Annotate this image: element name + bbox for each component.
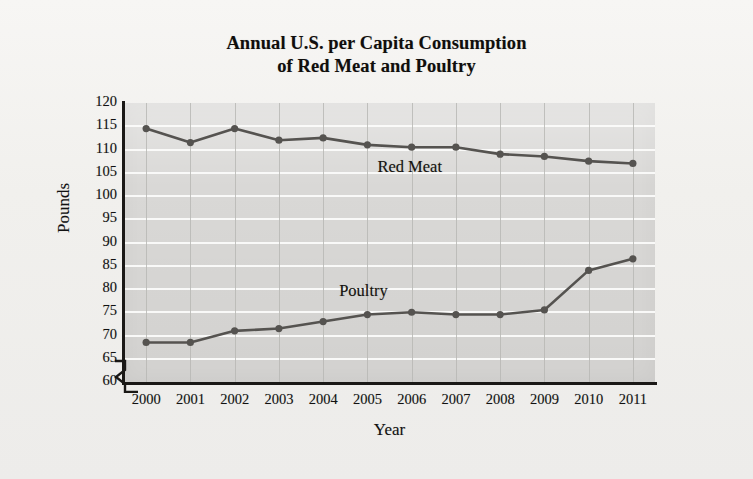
y-tick-label: 60: [77, 372, 117, 389]
data-point: [629, 255, 636, 262]
y-tick-label: 70: [77, 326, 117, 343]
y-axis-line: [122, 101, 125, 384]
y-axis-tick-labels: 6065707580859095100105110115120: [71, 0, 117, 479]
data-point: [187, 139, 194, 146]
series-label-poultry: Poultry: [339, 281, 388, 301]
data-point: [497, 311, 504, 318]
y-tick-label: 85: [77, 256, 117, 273]
data-point: [408, 144, 415, 151]
data-point: [275, 137, 282, 144]
y-axis-title: Pounds: [54, 138, 74, 278]
y-tick-label: 65: [77, 349, 117, 366]
chart-page: Annual U.S. per Capita Consumption of Re…: [0, 0, 753, 479]
data-point: [364, 311, 371, 318]
y-tick-label: 90: [77, 233, 117, 250]
data-point: [585, 158, 592, 165]
data-point: [585, 267, 592, 274]
data-point: [320, 318, 327, 325]
y-tick-label: 120: [77, 93, 117, 110]
data-point: [143, 339, 150, 346]
data-point: [143, 125, 150, 132]
series-lines: [124, 103, 655, 382]
y-tick-label: 95: [77, 209, 117, 226]
data-point: [231, 327, 238, 334]
data-point: [452, 144, 459, 151]
data-point: [364, 141, 371, 148]
series-label-red-meat: Red Meat: [377, 157, 442, 177]
data-point: [497, 151, 504, 158]
data-point: [231, 125, 238, 132]
data-point: [452, 311, 459, 318]
data-point: [275, 325, 282, 332]
data-point: [541, 153, 548, 160]
x-axis-title: Year: [124, 420, 655, 440]
y-tick-label: 75: [77, 302, 117, 319]
y-tick-label: 110: [77, 140, 117, 157]
data-point: [408, 309, 415, 316]
y-tick-label: 105: [77, 163, 117, 180]
x-axis-line: [122, 382, 657, 385]
x-tick-label: 2011: [603, 391, 663, 408]
series-line-poultry: [146, 259, 633, 343]
plot-area: [124, 103, 655, 382]
y-tick-label: 80: [77, 279, 117, 296]
chart-title-line-1-text: Annual U.S. per Capita Consumption: [226, 33, 526, 53]
y-tick-label: 115: [77, 116, 117, 133]
data-point: [187, 339, 194, 346]
data-point: [320, 134, 327, 141]
data-point: [541, 306, 548, 313]
y-tick-label: 100: [77, 186, 117, 203]
data-point: [629, 160, 636, 167]
